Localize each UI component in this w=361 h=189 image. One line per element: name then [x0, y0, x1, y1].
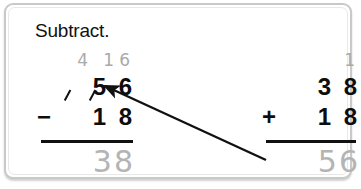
- minus-operator-icon: −: [37, 102, 51, 132]
- problem-addition-check: 1 3 8 + 1 8 56: [252, 48, 361, 132]
- minuend-value: 5 6: [27, 72, 147, 102]
- regroup-notation-subtraction: 4 16: [27, 48, 147, 72]
- carry-notation-addition: 1: [252, 48, 361, 72]
- answer-value-addition: 56: [318, 145, 360, 179]
- answer-value-subtraction: 38: [93, 145, 135, 179]
- plus-operator-icon: +: [262, 102, 276, 132]
- subtrahend-row: − 1 8: [27, 102, 147, 132]
- addend-two-row: + 1 8: [252, 102, 361, 132]
- minuend-row: 5 6: [27, 72, 147, 102]
- addend-one-value: 3 8: [252, 72, 361, 102]
- worksheet-page: Subtract. 4 16 5 6 − 1 8 38 1 3 8: [8, 7, 348, 175]
- answer-rule-subtraction: [41, 140, 133, 143]
- answer-rule-addition: [266, 140, 356, 143]
- problem-subtraction: 4 16 5 6 − 1 8 38: [27, 48, 147, 132]
- prompt-instruction: Subtract.: [35, 20, 109, 42]
- worksheet-frame: Subtract. 4 16 5 6 − 1 8 38 1 3 8: [4, 3, 352, 179]
- addend-one-row: 3 8: [252, 72, 361, 102]
